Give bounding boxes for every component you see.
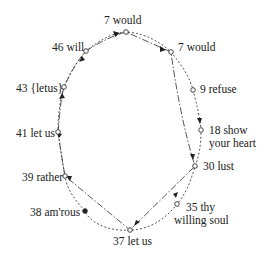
node-43-letus: 43 {letus} xyxy=(16,82,66,94)
node-7-would-top: 7 would xyxy=(104,14,142,34)
node-37-let-us: 37 let us xyxy=(113,228,152,247)
svg-text:7 would: 7 would xyxy=(178,41,216,53)
node-38-amrous: 38 am'rous xyxy=(30,206,87,218)
svg-text:7 would: 7 would xyxy=(104,14,142,26)
svg-text:your heart: your heart xyxy=(209,137,257,150)
svg-text:38 am'rous: 38 am'rous xyxy=(30,206,81,218)
node-39-rather: 39 rather xyxy=(22,171,67,183)
svg-text:9 refuse: 9 refuse xyxy=(200,83,237,95)
svg-text:43 {letus}: 43 {letus} xyxy=(16,82,63,94)
svg-text:35 thy: 35 thy xyxy=(186,201,215,214)
svg-text:39 rather: 39 rather xyxy=(22,171,63,183)
node-30-lust: 30 lust xyxy=(193,160,235,172)
node-9-refuse: 9 refuse xyxy=(191,83,237,95)
node-35-thy-willing-soul: 35 thy willing soul xyxy=(174,201,229,227)
svg-text:willing soul: willing soul xyxy=(174,214,229,227)
node-7-would-right: 7 would xyxy=(169,41,216,54)
svg-text:18 show: 18 show xyxy=(209,124,248,136)
node-18-show-your-heart: 18 show your heart xyxy=(199,124,257,150)
node-46-will: 46 will xyxy=(52,41,88,53)
svg-text:37 let us: 37 let us xyxy=(113,235,152,247)
arrow-icon xyxy=(113,31,120,37)
word-path-diagram: 7 would 7 would 46 will 43 {letus} 9 ref… xyxy=(0,0,266,262)
arrow-icon xyxy=(197,118,202,124)
svg-text:30 lust: 30 lust xyxy=(203,160,235,172)
arrow-icon xyxy=(173,192,178,198)
dash-dot-path xyxy=(58,32,195,230)
node-41-let-us: 41 let us xyxy=(16,127,60,139)
svg-text:41 let us: 41 let us xyxy=(16,127,55,139)
svg-text:46 will: 46 will xyxy=(52,41,84,53)
